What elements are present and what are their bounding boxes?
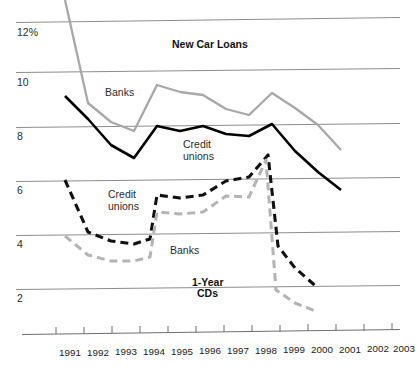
gridline-6 (16, 178, 400, 182)
x-tick-label-1993: 1993 (115, 346, 137, 357)
y-tick-label-2: 2 (17, 292, 23, 304)
y-tick-label-6: 6 (17, 184, 23, 196)
y-tick-label-4: 4 (17, 238, 23, 250)
annotation-cds-credit-unions: Credit unions (108, 188, 139, 212)
gridline-10 (16, 69, 400, 73)
x-tick-label-1991: 1991 (59, 347, 81, 358)
x-tick-label-2001: 2001 (339, 344, 361, 355)
y-tick-label-10: 10 (17, 76, 29, 88)
cds-credit-unions-label-line2: unions (108, 200, 139, 212)
annotation-cds-banks: Banks (170, 244, 199, 256)
chart-container: 12% 10 8 6 4 2 New Car Loans 1-Year CDs … (0, 0, 420, 372)
cds-title-line2: CDs (197, 287, 218, 299)
line-chart: 12% 10 8 6 4 2 New Car Loans 1-Year CDs … (0, 0, 420, 372)
y-tick-label-12: 12% (17, 26, 38, 38)
series-line-cds-banks (65, 160, 318, 312)
x-tick-label-1998: 1998 (255, 345, 277, 356)
x-axis-line (22, 330, 400, 335)
x-tick-label-2000: 2000 (311, 344, 333, 355)
x-axis (22, 323, 400, 335)
y-tick-label-8: 8 (17, 130, 23, 142)
new-car-loans-title: New Car Loans (172, 38, 248, 50)
group-title-new-car-loans: New Car Loans (172, 38, 248, 50)
cds-credit-unions-label-line1: Credit (108, 188, 136, 200)
loans-credit-unions-label-line1: Credit (183, 138, 211, 150)
x-tick-label-1994: 1994 (143, 346, 165, 357)
x-tick-label-1996: 1996 (199, 345, 221, 356)
annotation-loans-banks: Banks (105, 86, 134, 98)
x-tick-label-2003: 2003 (393, 343, 415, 354)
x-tick-label-1992: 1992 (87, 347, 109, 358)
annotation-loans-credit-unions: Credit unions (183, 138, 214, 162)
x-tick-label-1995: 1995 (171, 346, 193, 357)
gridline-12 (16, 18, 400, 23)
x-tick-label-1999: 1999 (283, 344, 305, 355)
series-line-new-car-loans-banks (65, 0, 341, 150)
gridline-4 (16, 232, 400, 236)
series-line-cds-credit-unions (65, 155, 318, 288)
group-title-one-year-cds: 1-Year CDs (192, 276, 224, 299)
x-tick-label-1997: 1997 (227, 345, 249, 356)
cds-banks-label: Banks (170, 244, 199, 256)
loans-banks-label: Banks (105, 86, 134, 98)
x-axis-labels: 1991 1992 1993 1994 1995 1996 1997 1998 … (59, 343, 415, 358)
loans-credit-unions-label-line2: unions (183, 150, 214, 162)
x-tick-label-2002: 2002 (367, 343, 389, 354)
y-axis-labels: 12% 10 8 6 4 2 (17, 26, 38, 304)
